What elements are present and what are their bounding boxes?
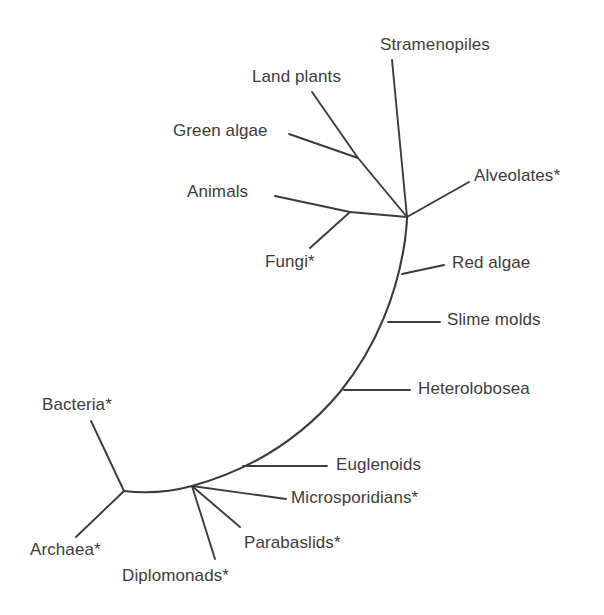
taxon-label-bacteria: Bacteria* bbox=[42, 396, 112, 413]
taxon-label-parabaslids: Parabaslids* bbox=[244, 534, 341, 551]
opisthokont-stem bbox=[350, 212, 407, 217]
red-algae-branch bbox=[402, 265, 444, 274]
archaea-branch bbox=[76, 491, 124, 537]
taxon-label-animals: Animals bbox=[187, 183, 248, 200]
taxon-label-alveolates: Alveolates* bbox=[474, 167, 560, 184]
taxon-label-euglenoids: Euglenoids bbox=[336, 456, 421, 473]
green-algae-branch bbox=[289, 134, 358, 158]
fungi-branch bbox=[310, 212, 350, 248]
taxon-label-land-plants: Land plants bbox=[252, 68, 341, 85]
taxon-label-stramenopiles: Stramenopiles bbox=[380, 36, 490, 53]
taxon-label-archaea: Archaea* bbox=[30, 541, 101, 558]
taxon-label-slime-molds: Slime molds bbox=[447, 311, 541, 328]
stramenopiles-branch bbox=[392, 60, 407, 217]
taxon-label-fungi: Fungi* bbox=[265, 253, 315, 270]
taxon-label-heterolobosea: Heterolobosea bbox=[418, 380, 530, 397]
phylogenetic-tree-figure: StramenopilesLand plantsGreen algaeAlveo… bbox=[0, 0, 604, 615]
plant-stem bbox=[358, 158, 407, 217]
taxon-label-red-algae: Red algae bbox=[452, 254, 530, 271]
taxon-label-microsporidians: Microsporidians* bbox=[291, 489, 418, 506]
tree-diagram-svg bbox=[0, 0, 604, 615]
branch-group bbox=[76, 60, 469, 559]
alveolates-branch bbox=[407, 182, 469, 217]
taxon-label-diplomonads: Diplomonads* bbox=[122, 567, 229, 584]
taxon-label-green-algae: Green algae bbox=[173, 122, 268, 139]
land-plants-branch bbox=[312, 92, 358, 158]
animals-branch bbox=[275, 196, 350, 212]
bacteria-branch bbox=[91, 421, 124, 491]
